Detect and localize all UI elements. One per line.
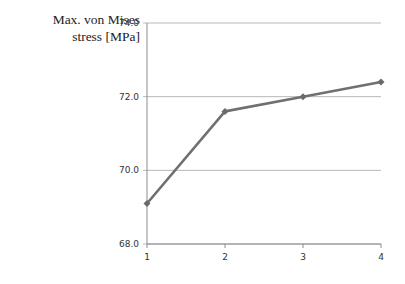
data-point-diamond-marker bbox=[300, 93, 307, 100]
y-tick-label: 68.0 bbox=[119, 239, 139, 249]
x-tick-label: 4 bbox=[378, 252, 384, 262]
x-tick-label: 1 bbox=[144, 252, 150, 262]
y-tick-label: 70.0 bbox=[119, 165, 139, 175]
y-tick-label: 74.0 bbox=[119, 18, 139, 28]
line-chart: 68.070.072.074.01234 bbox=[0, 0, 405, 284]
x-tick-label: 2 bbox=[222, 252, 228, 262]
y-tick-label: 72.0 bbox=[119, 92, 139, 102]
x-tick-label: 3 bbox=[300, 252, 306, 262]
data-point-diamond-marker bbox=[378, 78, 385, 85]
data-line bbox=[147, 82, 381, 204]
